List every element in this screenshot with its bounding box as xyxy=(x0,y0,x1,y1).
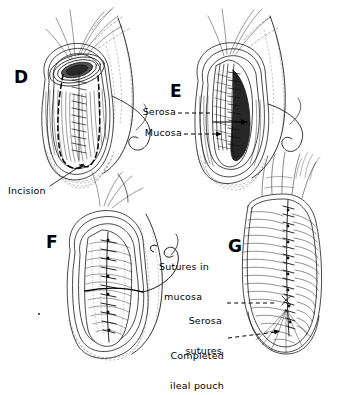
annotation-serosa-sutures-line1: Serosa xyxy=(126,316,222,326)
annotation-completed-ileal-pouch-line2: ileal pouch xyxy=(106,381,224,391)
annotation-completed-ileal-pouch-line1: Completed xyxy=(106,351,224,361)
panel-letter-f: F xyxy=(46,233,58,251)
annotation-incision: Incision xyxy=(8,186,46,196)
annotation-completed-ileal-pouch: Completed ileal pouch xyxy=(106,330,224,395)
annotation-mucosa: Mucosa xyxy=(96,128,182,138)
annotation-sutures-in-mucosa-line1: Sutures in xyxy=(159,262,209,272)
panel-letter-d: D xyxy=(14,68,28,86)
panel-letter-e: E xyxy=(170,82,182,100)
annotation-serosa: Serosa xyxy=(96,107,176,117)
panel-letter-g: G xyxy=(228,237,242,255)
